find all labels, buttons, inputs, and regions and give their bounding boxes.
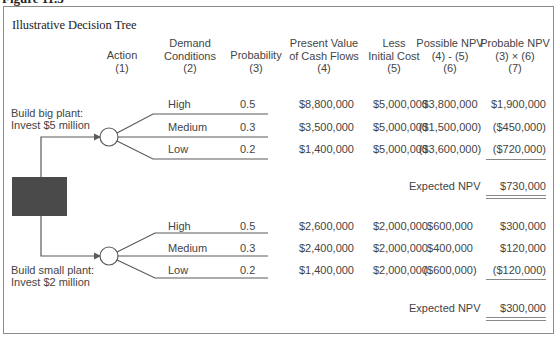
action-small-line1: Build small plant: [11,264,94,276]
connector-small-plant [41,216,100,256]
pv-cell: $2,600,000 [270,220,354,232]
probable-npv-cell: ($450,000) [460,121,546,133]
demand-cell: Medium [168,242,207,254]
demand-cell: Medium [168,121,207,133]
total-double-underline [486,317,546,321]
action-label-big-plant: Build big plant: Invest $5 million [11,107,90,131]
probability-cell: 0.5 [240,98,255,110]
action-big-line2: Invest $5 million [11,119,90,131]
decision-tree-diagram [0,0,558,342]
sum-underline [486,159,546,160]
probability-cell: 0.3 [240,242,255,254]
chance-node-small-plant [100,247,118,265]
action-small-line2: Invest $2 million [11,276,94,288]
pv-cell: $1,400,000 [270,143,354,155]
probable-npv-cell: ($120,000) [460,264,546,276]
probable-npv-cell: $120,000 [460,242,546,254]
probability-cell: 0.5 [240,220,255,232]
action-label-small-plant: Build small plant: Invest $2 million [11,264,94,288]
expected-npv-value: $730,000 [460,180,546,192]
demand-cell: Low [168,264,188,276]
probable-npv-cell: $1,900,000 [460,98,546,110]
probability-cell: 0.3 [240,121,255,133]
probable-npv-cell: ($720,000) [460,143,546,155]
demand-cell: High [168,220,191,232]
connector-big-plant [41,137,100,177]
chance-node-big-plant [100,128,118,146]
demand-cell: High [168,98,191,110]
probable-npv-cell: $300,000 [460,220,546,232]
demand-cell: Low [168,143,188,155]
pv-cell: $2,400,000 [270,242,354,254]
probability-cell: 0.2 [240,143,255,155]
sum-underline [486,279,546,280]
total-double-underline [486,195,546,199]
pv-cell: $1,400,000 [270,264,354,276]
action-big-line1: Build big plant: [11,107,90,119]
expected-npv-value: $300,000 [460,302,546,314]
decision-node-square [12,177,67,216]
probability-cell: 0.2 [240,264,255,276]
pv-cell: $8,800,000 [270,98,354,110]
pv-cell: $3,500,000 [270,121,354,133]
